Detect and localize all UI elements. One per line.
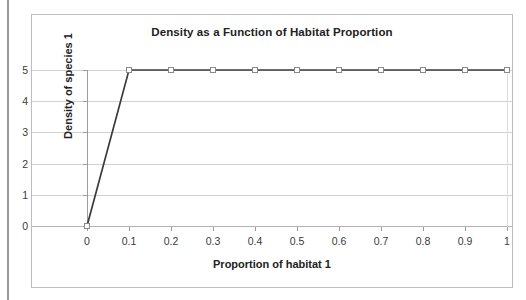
data-point-marker — [169, 68, 174, 73]
data-point-marker — [463, 68, 468, 73]
data-point-marker — [421, 68, 426, 73]
chart-container: Density as a Function of Habitat Proport… — [31, 14, 513, 288]
y-tick-label-2: 2 — [22, 159, 28, 169]
data-point-marker — [337, 68, 342, 73]
data-point-marker — [505, 68, 510, 73]
y-axis-title-wrap: Density of species 1 — [32, 70, 62, 226]
y-tick-label-5: 5 — [22, 65, 28, 75]
y-axis-title: Density of species 1 — [62, 6, 74, 166]
data-series-layer — [32, 15, 514, 289]
x-axis-title: Proportion of habitat 1 — [32, 258, 512, 270]
series-markers-group — [85, 68, 510, 229]
y-tick-label-3: 3 — [22, 127, 28, 137]
y-tick-label-4: 4 — [22, 96, 28, 106]
series-line-density — [87, 70, 507, 226]
y-tick-label-0: 0 — [22, 221, 28, 231]
data-point-marker — [295, 68, 300, 73]
data-point-marker — [127, 68, 132, 73]
y-tick-label-1: 1 — [22, 190, 28, 200]
data-point-marker — [379, 68, 384, 73]
data-point-marker — [85, 224, 90, 229]
data-point-marker — [211, 68, 216, 73]
data-point-marker — [253, 68, 258, 73]
page-edge-artifact-line — [7, 0, 9, 300]
